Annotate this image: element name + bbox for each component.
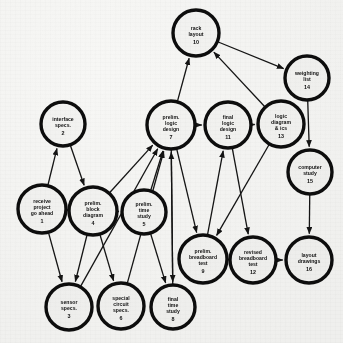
node-number-12: 12	[250, 269, 256, 275]
node-2[interactable]: interfacespecs.2	[41, 102, 85, 146]
edge-4-to-3	[75, 235, 87, 281]
network-graph: receiveprojectgo ahead1interfacespecs.2s…	[0, 0, 343, 343]
node-12[interactable]: revisedbreadboardtest12	[230, 237, 276, 283]
node-number-13: 13	[278, 133, 284, 139]
node-6[interactable]: specialcircuitspecs.6	[98, 283, 144, 329]
node-8[interactable]: finaltimestudy8	[151, 285, 195, 329]
node-10[interactable]: racklayout10	[173, 10, 219, 56]
node-label-line: specs.	[61, 305, 78, 311]
node-number-4: 4	[92, 220, 95, 226]
node-number-10: 10	[193, 39, 199, 45]
node-number-1: 1	[41, 218, 44, 224]
node-14[interactable]: weightinglist14	[285, 56, 329, 100]
edge-10-to-14	[218, 42, 283, 69]
edge-5-to-8	[151, 234, 166, 283]
node-number-16: 16	[306, 266, 312, 272]
node-label-line: diagram	[83, 212, 103, 218]
node-label-line: design	[220, 126, 237, 132]
edge-11-to-12	[232, 149, 248, 235]
node-9[interactable]: prelim.breadboardtest9	[179, 235, 227, 283]
node-number-14: 14	[304, 84, 310, 90]
node-number-5: 5	[143, 221, 146, 227]
node-1[interactable]: receiveprojectgo ahead1	[18, 185, 66, 233]
node-label-line: test	[198, 260, 207, 266]
edge-13-to-9	[217, 145, 269, 236]
node-label-line: drawings	[298, 258, 321, 264]
edge-7-to-9	[177, 149, 197, 232]
node-label-line: design	[163, 126, 180, 132]
node-3[interactable]: sensorspecs.3	[46, 284, 92, 330]
node-label-line: study	[166, 308, 180, 314]
node-label-line: test	[248, 261, 257, 267]
edge-1-to-2	[48, 148, 57, 184]
node-number-7: 7	[170, 134, 173, 140]
node-label-line: study	[303, 170, 317, 176]
node-13[interactable]: logicdiagram& ics13	[258, 101, 304, 147]
node-label-line: list	[303, 76, 311, 82]
node-label-line: specs.	[55, 122, 72, 128]
edge-4-to-6	[100, 235, 114, 281]
node-11[interactable]: finallogicdesign11	[205, 102, 251, 148]
edge-2-to-4	[71, 146, 85, 186]
node-label-line: go ahead	[31, 210, 54, 216]
node-number-6: 6	[120, 315, 123, 321]
node-number-8: 8	[172, 316, 175, 322]
edge-13-to-10	[214, 52, 265, 106]
node-number-9: 9	[202, 268, 205, 274]
edge-7-to-10	[178, 58, 190, 101]
node-15[interactable]: computerstudy15	[288, 150, 332, 194]
node-number-11: 11	[225, 134, 231, 140]
diagram-canvas: receiveprojectgo ahead1interfacespecs.2s…	[0, 0, 343, 343]
edge-1-to-3	[49, 233, 62, 282]
edge-9-to-11	[208, 151, 224, 235]
nodes-layer: receiveprojectgo ahead1interfacespecs.2s…	[18, 10, 332, 330]
edge-14-to-15	[308, 101, 309, 147]
node-16[interactable]: layoutdrawings16	[286, 237, 332, 283]
node-number-3: 3	[68, 313, 71, 319]
node-number-2: 2	[62, 130, 65, 136]
node-label-line: specs.	[113, 307, 130, 313]
node-label-line: & ics	[275, 125, 287, 131]
node-7[interactable]: prelim.logicdesign7	[147, 101, 195, 149]
node-4[interactable]: prelim.blockdiagram4	[69, 187, 117, 235]
edge-8-to-7	[171, 152, 172, 284]
node-label-line: layout	[188, 31, 203, 37]
node-5[interactable]: prelim.timestudy5	[122, 190, 166, 234]
node-number-15: 15	[307, 178, 313, 184]
node-label-line: study	[137, 213, 151, 219]
